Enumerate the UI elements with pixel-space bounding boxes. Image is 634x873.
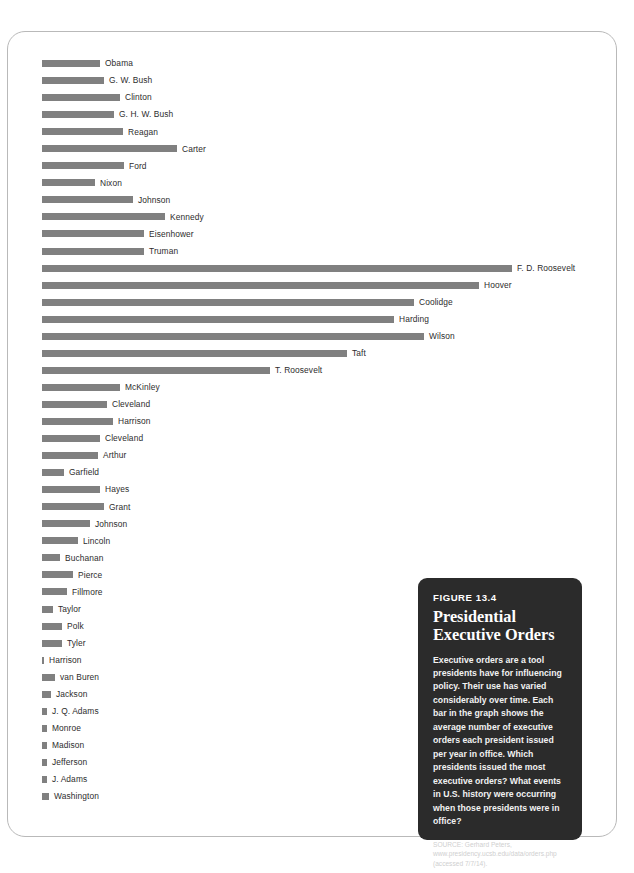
bar-label: Carter [182,145,206,153]
bar-label: Garfield [69,468,99,476]
bar [42,162,124,169]
bar-label: Harrison [49,656,81,664]
bar [42,640,62,647]
bar-label: Taylor [58,605,81,613]
bar-label: Arthur [103,451,126,459]
bar-label: J. Q. Adams [52,707,99,715]
bar [42,503,104,510]
bar [42,657,44,664]
bar [42,674,55,681]
bar [42,145,177,152]
bar [42,299,414,306]
bar-label: Buchanan [65,554,104,562]
bar-row: Reagan [42,123,602,140]
bar-label: Pierce [78,571,102,579]
bar [42,179,95,186]
bar-label: Johnson [138,196,170,204]
bar [42,213,165,220]
bar [42,111,114,118]
bar [42,350,347,357]
bar [42,793,49,800]
bar-label: Harding [399,315,429,323]
figure-source-text: SOURCE: Gerhard Peters, www.presidency.u… [433,840,567,869]
bar-label: Johnson [95,520,127,528]
bar-row: Ford [42,157,602,174]
bar [42,486,100,493]
bar-row: Cleveland [42,430,602,447]
figure-caption-box: FIGURE 13.4 Presidential Executive Order… [418,578,582,840]
bar-label: Lincoln [83,537,110,545]
bar-label: G. H. W. Bush [119,110,173,118]
bar-label: G. W. Bush [109,76,152,84]
bar-label: Grant [109,503,130,511]
bar-row: Cleveland [42,396,602,413]
figure-number: FIGURE 13.4 [433,592,567,603]
bar-label: Cleveland [112,400,150,408]
bar [42,452,98,459]
bar-row: Clinton [42,89,602,106]
bar-label: F. D. Roosevelt [517,264,575,272]
bar-label: Harrison [118,417,150,425]
bar-label: Nixon [100,179,122,187]
figure-title-line1: Presidential [433,607,516,626]
bar-row: Buchanan [42,549,602,566]
bar-label: Jefferson [52,758,87,766]
bar [42,537,78,544]
bar-row: McKinley [42,379,602,396]
bar-label: Wilson [429,332,455,340]
bar-row: Hayes [42,481,602,498]
bar-label: McKinley [125,383,160,391]
bar [42,571,73,578]
bar [42,384,120,391]
bar [42,367,270,374]
bar [42,708,47,715]
bar-row: Wilson [42,328,602,345]
bar-row: Nixon [42,174,602,191]
bar-label: Truman [149,247,178,255]
bar-row: G. W. Bush [42,72,602,89]
bar-row: T. Roosevelt [42,362,602,379]
bar [42,128,123,135]
bar [42,230,144,237]
bar [42,196,133,203]
bar [42,725,47,732]
bar [42,401,107,408]
bar [42,435,100,442]
bar-row: Grant [42,498,602,515]
bar [42,265,512,272]
bar [42,588,67,595]
bar [42,691,51,698]
bar [42,282,479,289]
bar-row: Taft [42,345,602,362]
bar-row: Carter [42,140,602,157]
bar-label: Clinton [125,93,152,101]
bar-label: Polk [67,622,84,630]
bar [42,742,47,749]
figure-title-line2: Executive Orders [433,625,555,644]
bar-label: Ford [129,162,147,170]
bar [42,418,113,425]
bar-label: Madison [52,741,84,749]
bar-label: Hoover [484,281,512,289]
bar-row: Johnson [42,191,602,208]
bar-row: Harrison [42,413,602,430]
bar-label: Reagan [128,128,158,136]
figure-title: Presidential Executive Orders [433,608,567,645]
bar [42,333,424,340]
bar-row: Arthur [42,447,602,464]
bar-row: Lincoln [42,532,602,549]
bar-row: F. D. Roosevelt [42,260,602,277]
bar [42,469,64,476]
bar-label: Hayes [105,485,129,493]
bar [42,316,394,323]
bar-label: Monroe [52,724,81,732]
bar [42,60,100,67]
bar-label: Cleveland [105,434,143,442]
bar [42,248,144,255]
bar-label: Coolidge [419,298,453,306]
bar-row: Garfield [42,464,602,481]
bar [42,623,62,630]
bar-label: Fillmore [72,588,103,596]
bar-row: Coolidge [42,294,602,311]
bar-row: Johnson [42,515,602,532]
